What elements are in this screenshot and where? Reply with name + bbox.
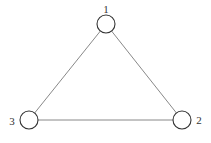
node-3-label: 3 xyxy=(9,115,15,127)
node-3 xyxy=(20,111,38,129)
node-2-label: 2 xyxy=(196,114,202,126)
edge-1-2 xyxy=(106,24,182,120)
edge-1-3 xyxy=(29,24,106,120)
triangle-graph-diagram: 1 2 3 xyxy=(0,0,211,143)
node-2 xyxy=(173,111,191,129)
node-1-label: 1 xyxy=(103,3,109,15)
node-1 xyxy=(97,15,115,33)
